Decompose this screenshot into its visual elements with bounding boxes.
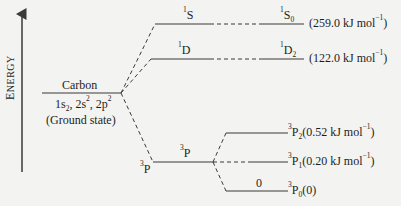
ground-state-configuration: 1s2, 2s2, 2p2 bbox=[55, 98, 112, 110]
connector-ground-to-1D bbox=[121, 59, 151, 93]
ground-state-caption: (Ground state) bbox=[46, 114, 116, 126]
term-1D-label: 1D bbox=[178, 44, 190, 56]
level-1S0-label: 1S0 bbox=[280, 9, 294, 21]
term-3P-label: 3P bbox=[180, 147, 190, 159]
ground-state-name: Carbon bbox=[62, 79, 97, 91]
level-3P0-label: 3P0(0) bbox=[288, 184, 316, 196]
level-3P1-label: 3P1(0.20 kJ mol−1) bbox=[288, 155, 375, 167]
level-1D2-energy: (122.0 kJ mol−1) bbox=[309, 52, 387, 64]
level-3P2-label: 3P2(0.52 kJ mol−1) bbox=[288, 126, 375, 138]
term-3P-lower-label: 3P bbox=[140, 163, 150, 175]
level-1D2-label: 1D2 bbox=[280, 44, 296, 56]
zero-energy-label: 0 bbox=[256, 177, 262, 189]
term-1S-label: 1S bbox=[183, 9, 193, 21]
connector-ground-to-1S bbox=[121, 24, 155, 93]
connector-3P-to-3P2 bbox=[213, 133, 226, 162]
connector-3P-to-3P0 bbox=[213, 162, 226, 191]
energy-axis-label: ENERGY bbox=[3, 55, 18, 100]
level-1S0-energy: (259.0 kJ mol−1) bbox=[309, 17, 387, 29]
connector-ground-to-3P bbox=[121, 93, 153, 162]
